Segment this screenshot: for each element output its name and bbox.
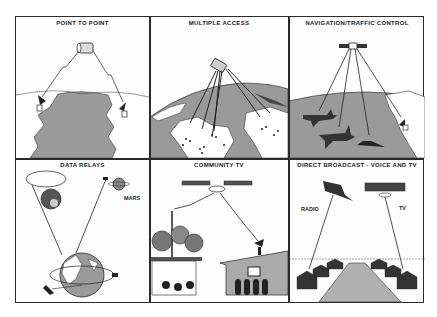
multiple-access-illustration	[150, 17, 288, 158]
panel-title: MULTIPLE ACCESS	[150, 20, 288, 26]
panel-title: NAVIGATION/TRAFFIC CONTROL	[289, 20, 425, 26]
panel-navigation-traffic-control: NAVIGATION/TRAFFIC CONTROL	[289, 17, 425, 158]
satellite-icon	[77, 43, 93, 53]
panel-title: COMMUNITY TV	[150, 162, 288, 168]
relay-satellite-icon	[43, 285, 54, 295]
panel-title: DIRECT BROADCAST - VOICE AND TV	[289, 162, 425, 168]
divider-horizontal	[16, 158, 423, 160]
data-relays-illustration	[16, 159, 149, 302]
direct-broadcast-illustration	[289, 159, 425, 302]
point-to-point-illustration	[16, 17, 149, 158]
divider-vertical-1	[149, 17, 151, 302]
community-tv-illustration	[150, 159, 288, 302]
divider-vertical-2	[288, 17, 290, 302]
panel-title: POINT TO POINT	[16, 20, 149, 26]
panel-multiple-access: MULTIPLE ACCESS	[150, 17, 288, 158]
navigation-illustration	[289, 17, 425, 158]
panel-title: DATA RELAYS	[16, 162, 149, 168]
mars-label: MARS	[124, 195, 140, 201]
village-trees	[150, 211, 203, 295]
mars-icon	[113, 178, 125, 190]
panel-point-to-point: POINT TO POINT	[16, 17, 149, 158]
satellite-icon	[339, 43, 367, 49]
radio-label: RADIO	[301, 206, 319, 212]
tv-satellite-icon	[365, 183, 405, 197]
panel-direct-broadcast: DIRECT BROADCAST - VOICE AND TV RADIO TV	[289, 159, 425, 302]
figure-frame: POINT TO POINT	[15, 16, 424, 303]
tv-label: TV	[399, 205, 406, 211]
panel-community-tv: COMMUNITY TV	[150, 159, 288, 302]
panel-data-relays: DATA RELAYS MARS	[16, 159, 149, 302]
community-building	[220, 239, 288, 295]
satellite-icon	[182, 181, 252, 192]
radio-satellite-icon	[323, 181, 353, 201]
moon-icon	[41, 189, 61, 209]
satellite-icon	[210, 58, 227, 73]
